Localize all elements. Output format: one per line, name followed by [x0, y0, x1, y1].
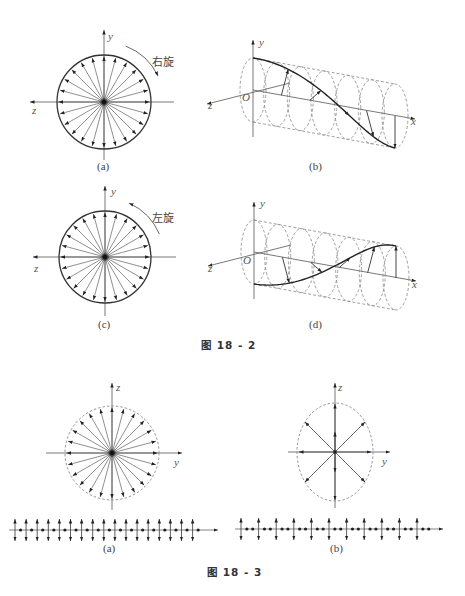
fig18-2c-z-axis-label: z — [34, 262, 38, 274]
fig18-3a-z-axis-label: z — [116, 381, 120, 393]
fig18-2b-x-axis-label: x — [411, 115, 416, 127]
fig18-2d-origin-label: O — [243, 254, 251, 266]
fig18-3b-label: (b) — [330, 542, 343, 554]
fig18-2b-helix-diagram — [207, 40, 415, 148]
fig18-3b-z-axis-label: z — [338, 381, 342, 393]
fig18-2a-rotation-label: 右旋 — [152, 53, 174, 69]
fig18-2d-helix-diagram — [208, 202, 416, 310]
fig18-2a-circle-diagram — [30, 30, 174, 160]
fig18-3a-unpolarized-diagram — [9, 383, 218, 541]
fig18-2a-label: (a) — [97, 160, 109, 172]
fig18-2d-x-axis-label: x — [412, 278, 417, 290]
fig18-2b-label: (b) — [309, 160, 322, 172]
fig18-2c-label: (c) — [98, 318, 110, 330]
fig18-2c-rotation-label: 左旋 — [152, 209, 174, 225]
fig18-2b-y-axis-label: y — [259, 36, 264, 48]
fig18-2b-origin-label: O — [242, 91, 250, 103]
fig18-3b-partial-polarized-diagram — [235, 383, 443, 540]
fig18-2d-label: (d) — [309, 318, 322, 330]
figure-18-3-caption: 图 18 - 3 — [207, 564, 262, 579]
fig18-2d-y-axis-label: y — [260, 197, 265, 209]
figure-canvas — [0, 0, 465, 596]
fig18-2c-circle-diagram — [33, 186, 176, 316]
fig18-3a-y-axis-label: y — [174, 456, 179, 468]
fig18-2a-y-axis-label: y — [108, 30, 113, 42]
fig18-2d-z-axis-label: z — [208, 262, 212, 274]
fig18-3b-y-axis-label: y — [382, 455, 387, 467]
fig18-2a-z-axis-label: z — [32, 104, 36, 116]
fig18-2b-z-axis-label: z — [208, 99, 212, 111]
fig18-3a-label: (a) — [103, 542, 115, 554]
figure-18-2-caption: 图 18 - 2 — [201, 337, 256, 352]
fig18-2c-y-axis-label: y — [111, 185, 116, 197]
